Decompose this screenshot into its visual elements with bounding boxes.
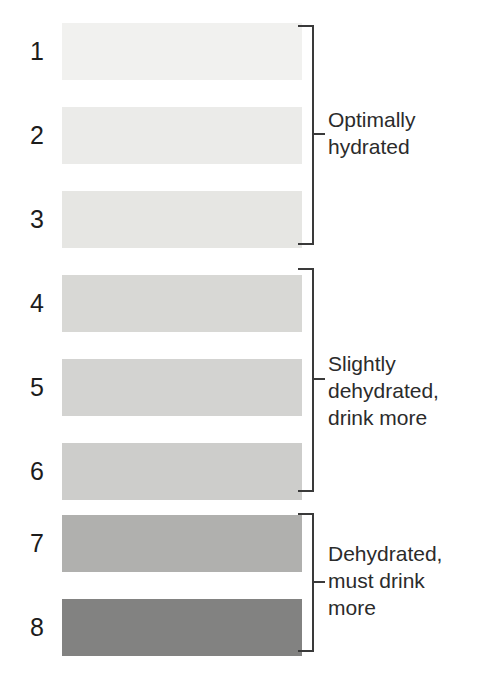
group-label-dehydrated: Dehydrated, must drink more [328, 540, 442, 621]
chart-row: 3 [0, 191, 486, 248]
bracket-spine [312, 25, 314, 245]
chart-row: 6 [0, 443, 486, 500]
colour-swatch [62, 443, 302, 500]
bracket-spine [312, 268, 314, 492]
group-label-optimally-hydrated: Optimally hydrated [328, 106, 416, 160]
row-number-label: 6 [22, 443, 52, 500]
colour-swatch [62, 275, 302, 332]
row-number-label: 8 [22, 599, 52, 656]
colour-swatch [62, 359, 302, 416]
colour-swatch [62, 599, 302, 656]
group-bracket-dehydrated [298, 513, 314, 652]
colour-swatch [62, 191, 302, 248]
group-bracket-optimally-hydrated [298, 25, 314, 245]
row-number-label: 3 [22, 191, 52, 248]
colour-swatch [62, 515, 302, 572]
bracket-arm-bottom [298, 650, 314, 652]
bracket-tick [314, 378, 325, 380]
colour-swatch [62, 107, 302, 164]
chart-row: 1 [0, 23, 486, 80]
row-number-label: 7 [22, 515, 52, 572]
row-number-label: 4 [22, 275, 52, 332]
chart-row: 4 [0, 275, 486, 332]
urine-colour-hydration-chart: 1 2 3 4 5 6 7 8 Optimally hydrated [0, 0, 486, 678]
row-number-label: 2 [22, 107, 52, 164]
group-label-slightly-dehydrated: Slightly dehydrated, drink more [328, 350, 439, 431]
row-number-label: 5 [22, 359, 52, 416]
bracket-tick [314, 133, 325, 135]
colour-swatch [62, 23, 302, 80]
bracket-arm-bottom [298, 490, 314, 492]
row-number-label: 1 [22, 23, 52, 80]
group-bracket-slightly-dehydrated [298, 268, 314, 492]
bracket-arm-bottom [298, 243, 314, 245]
bracket-tick [314, 581, 325, 583]
